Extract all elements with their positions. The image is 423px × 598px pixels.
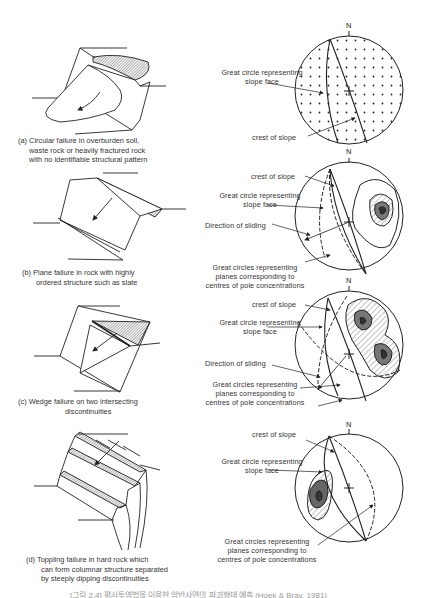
label-pole-circles-d: Great circles representing planes corres… [208, 537, 326, 564]
label-crest-d: crest of slope [252, 430, 296, 439]
stereonet-a [268, 31, 403, 144]
figure-caption-cropped: [그림 2.4] 평사투영법을 이용한 암반사면의 파괴형태 예측 (Hoek … [70, 590, 370, 598]
block-diagram-plane-failure [33, 173, 186, 260]
block-diagram-toppling-failure [34, 432, 160, 550]
label-crest-b: crest of slope [251, 172, 295, 181]
north-label-a: N [346, 21, 351, 30]
label-pole-circles-c: Great circles representing planes corres… [196, 380, 314, 407]
label-crest-c: crest of slope [252, 300, 296, 309]
block-diagram-circular-failure [32, 48, 166, 134]
label-great-circle-c: Great circle representing slope face [210, 318, 310, 336]
label-sliding-b: Direction of sliding [205, 221, 266, 230]
label-great-circle-b: Great circle representing slope face [210, 191, 310, 209]
label-crest-a: crest of slope [252, 133, 296, 142]
label-pole-circles-b: Great circles representing planes corres… [196, 263, 314, 290]
label-sliding-c: Direction of sliding [205, 359, 266, 368]
north-label-d: N [346, 420, 351, 429]
caption-a: (a) Circular failure in overburden soil,… [18, 136, 147, 165]
caption-d: (d) Toppling failure in hard rock which … [26, 555, 168, 584]
label-great-circle-d: Great circle representing slope face [212, 457, 312, 475]
caption-b: (b) Plane failure in rock with highly or… [22, 268, 137, 287]
label-great-circle-a: Great circle representing slope face [212, 68, 312, 86]
stereonet-d [270, 429, 403, 545]
north-label-b: N [346, 147, 351, 156]
block-diagram-wedge-failure [34, 306, 160, 392]
north-label-c: N [346, 276, 351, 285]
caption-c: (c) Wedge failure on two intersecting di… [18, 397, 138, 416]
figure-drawings [0, 0, 423, 598]
